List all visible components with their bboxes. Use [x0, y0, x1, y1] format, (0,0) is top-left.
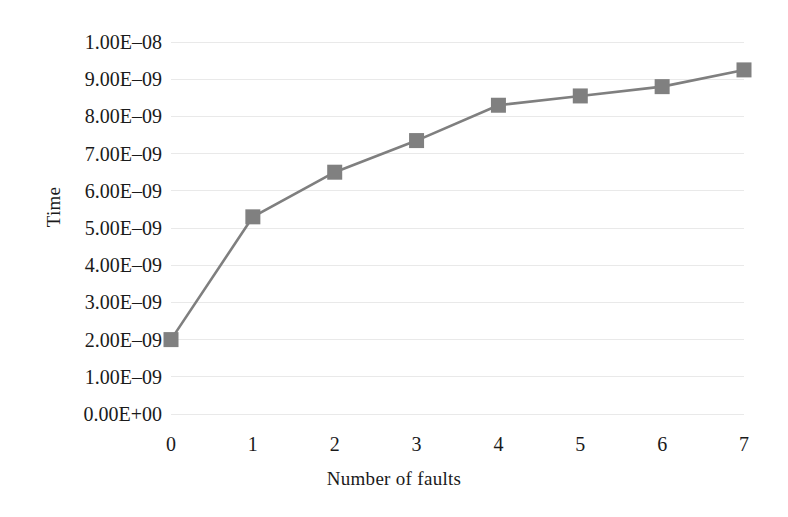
data-point-marker: [655, 79, 670, 94]
chart-figure: Time 1.00E–089.00E–098.00E–097.00E–096.0…: [0, 0, 788, 517]
y-tick-label: 1.00E–08: [62, 32, 162, 52]
y-tick-label: 0.00E+00: [62, 404, 162, 424]
x-tick-label: 1: [233, 432, 273, 456]
data-point-marker: [409, 133, 424, 148]
y-tick-label: 2.00E–09: [62, 330, 162, 350]
y-tick-label: 4.00E–09: [62, 255, 162, 275]
x-tick-label: 2: [315, 432, 355, 456]
plot-area: [171, 42, 744, 414]
y-tick-label: 7.00E–09: [62, 144, 162, 164]
y-tick-label: 3.00E–09: [62, 292, 162, 312]
series-line-time: [171, 70, 744, 340]
x-tick-label: 3: [397, 432, 437, 456]
data-point-marker: [491, 98, 506, 113]
gridlines: [171, 42, 744, 414]
x-tick-label: 0: [151, 432, 191, 456]
data-point-marker: [737, 62, 752, 77]
y-tick-label: 1.00E–09: [62, 367, 162, 387]
y-tick-label: 6.00E–09: [62, 181, 162, 201]
x-axis-tick-labels: 01234567: [0, 432, 788, 462]
data-point-marker: [327, 165, 342, 180]
data-point-marker: [164, 332, 179, 347]
series-markers: [164, 62, 752, 347]
x-tick-label: 4: [478, 432, 518, 456]
y-tick-label: 9.00E–09: [62, 69, 162, 89]
data-point-marker: [573, 88, 588, 103]
x-axis-title: Number of faults: [0, 468, 788, 490]
data-point-marker: [245, 209, 260, 224]
x-tick-label: 5: [560, 432, 600, 456]
series-plot: [171, 42, 744, 414]
y-tick-label: 8.00E–09: [62, 106, 162, 126]
x-tick-label: 7: [724, 432, 764, 456]
y-tick-label: 5.00E–09: [62, 218, 162, 238]
x-tick-label: 6: [642, 432, 682, 456]
